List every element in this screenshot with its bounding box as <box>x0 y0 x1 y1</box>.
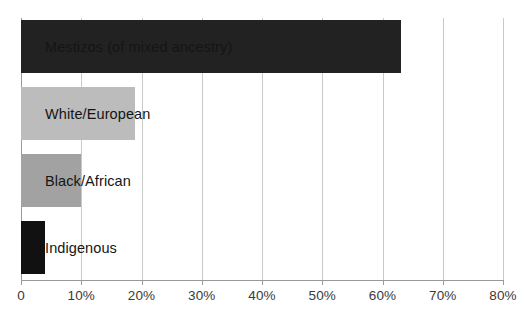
tick-mark-80% <box>503 280 504 285</box>
x-tick-label: 0 <box>17 288 25 303</box>
bar-category-label: White/European <box>45 107 150 122</box>
bar-chart: 010%20%30%40%50%60%70%80% Mestizos (of m… <box>0 0 529 318</box>
tick-mark-60% <box>383 280 384 285</box>
x-tick-label: 60% <box>369 288 396 303</box>
x-tick-label: 20% <box>128 288 155 303</box>
gridline-80% <box>503 18 504 280</box>
tick-mark-40% <box>262 280 263 285</box>
bar-category-label: Black/African <box>45 174 131 189</box>
tick-mark-20% <box>142 280 143 285</box>
tick-mark-30% <box>202 280 203 285</box>
x-tick-label: 70% <box>429 288 456 303</box>
bar-category-label: Mestizos (of mixed ancestry) <box>45 40 232 55</box>
tick-mark-0 <box>21 280 22 285</box>
bar <box>21 221 45 274</box>
tick-mark-70% <box>443 280 444 285</box>
gridline-70% <box>443 18 444 280</box>
tick-mark-50% <box>322 280 323 285</box>
x-tick-label: 30% <box>188 288 215 303</box>
x-tick-label: 50% <box>309 288 336 303</box>
x-tick-label: 40% <box>248 288 275 303</box>
x-tick-label: 80% <box>489 288 516 303</box>
x-tick-label: 10% <box>68 288 95 303</box>
tick-mark-10% <box>81 280 82 285</box>
bar-category-label: Indigenous <box>45 241 117 256</box>
